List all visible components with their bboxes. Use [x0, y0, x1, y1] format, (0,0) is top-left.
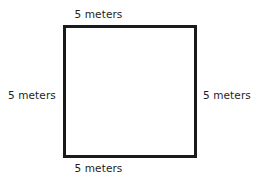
dimension-label-right: 5 meters: [203, 89, 251, 101]
dimension-label-bottom: 5 meters: [0, 162, 260, 174]
dimension-label-top: 5 meters: [0, 8, 260, 20]
dimension-label-left: 5 meters: [8, 89, 56, 101]
square-shape: [63, 25, 197, 158]
geometry-diagram: 5 meters 5 meters 5 meters 5 meters: [0, 0, 260, 179]
